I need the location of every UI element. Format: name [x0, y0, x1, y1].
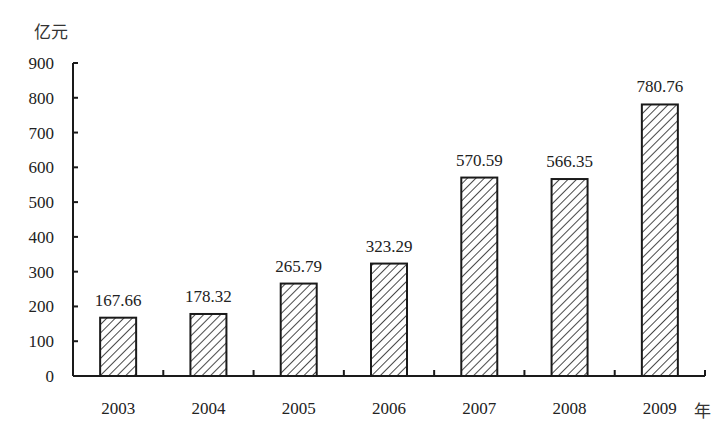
bar-2005: [281, 284, 317, 376]
data-label: 780.76: [636, 77, 683, 96]
data-label: 265.79: [275, 257, 322, 276]
y-tick-label: 300: [29, 263, 55, 282]
data-label: 570.59: [456, 151, 503, 170]
x-tick-label: 2004: [191, 399, 226, 418]
y-tick-label: 800: [29, 89, 55, 108]
bars-group: 167.662003178.322004265.792005323.292006…: [95, 77, 683, 418]
data-label: 323.29: [366, 237, 413, 256]
y-tick-label: 100: [29, 332, 55, 351]
bar-2003: [100, 318, 136, 376]
x-tick-label: 2003: [101, 399, 135, 418]
x-tick-label: 2009: [643, 399, 677, 418]
y-tick-label: 400: [29, 228, 55, 247]
bar-2009: [642, 104, 678, 376]
bar-2004: [190, 314, 226, 376]
y-tick-label: 900: [29, 54, 55, 73]
x-tick-label: 2008: [553, 399, 587, 418]
data-label: 178.32: [185, 287, 232, 306]
data-label: 167.66: [95, 291, 142, 310]
data-label: 566.35: [546, 152, 593, 171]
bar-2008: [552, 179, 588, 376]
x-tick-label: 2006: [372, 399, 406, 418]
x-tick-label: 2005: [282, 399, 316, 418]
bar-2007: [461, 178, 497, 376]
y-axis: 0100200300400500600700800900: [29, 54, 79, 386]
y-tick-label: 0: [46, 367, 55, 386]
y-tick-label: 600: [29, 158, 55, 177]
bar-chart: 0100200300400500600700800900 167.6620031…: [0, 0, 728, 443]
y-tick-label: 700: [29, 124, 55, 143]
y-tick-label: 500: [29, 193, 55, 212]
y-tick-label: 200: [29, 297, 55, 316]
x-tick-label: 2007: [462, 399, 497, 418]
bar-2006: [371, 264, 407, 376]
